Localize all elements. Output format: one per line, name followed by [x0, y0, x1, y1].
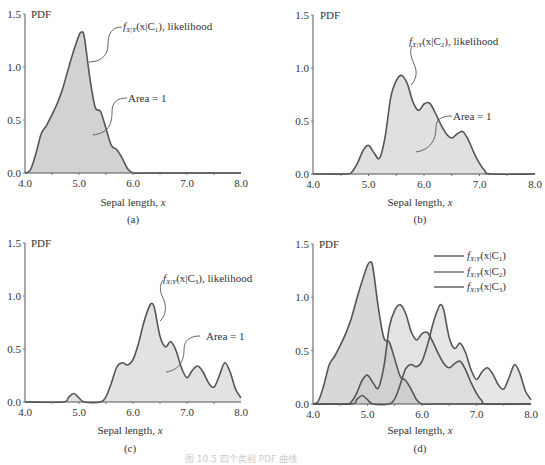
- legend: fX|Y(x|C1) fX|Y(x|C2) fX|Y(x|C3): [434, 249, 506, 294]
- x-axis-label: Sepal length, x: [97, 424, 162, 436]
- likelihood-annotation: fX|Y(x|C2), likelihood: [409, 35, 499, 49]
- annotation-leader: [89, 27, 122, 62]
- x-tick-label: 6.0: [126, 177, 140, 189]
- c3-area: [25, 303, 241, 402]
- y-tick-label: 1.0: [7, 290, 21, 302]
- x-tick-label: 7.0: [470, 408, 484, 420]
- x-axis-label: Sepal length, x: [387, 424, 452, 436]
- figure-caption: 图 10.5 四个类别 PDF 曲线: [185, 452, 297, 465]
- x-tick-label: 5.0: [362, 178, 376, 190]
- y-tick-label: 1.5: [7, 8, 21, 20]
- y-tick-label: 0.0: [295, 168, 309, 180]
- y-tick-label: 1.0: [295, 291, 309, 303]
- legend-label-c3: fX|Y(x|C3): [467, 280, 506, 294]
- c2-area: [313, 75, 535, 174]
- y-tick-label: 0.5: [7, 343, 21, 355]
- figure: 4.05.06.07.08.00.00.51.01.5 PDF Sepal le…: [0, 0, 545, 465]
- y-axis-label: PDF: [31, 8, 51, 20]
- x-tick-label: 6.0: [126, 406, 140, 418]
- likelihood-annotation: fX|Y(x|C3), likelihood: [163, 272, 253, 286]
- y-tick-label: 1.5: [295, 238, 309, 250]
- panel-label: (c): [124, 442, 137, 455]
- area-annotation: Area = 1: [453, 110, 492, 122]
- panel-b-c2-likelihood: 4.05.06.07.08.00.00.51.01.5 PDF Sepal le…: [295, 9, 542, 226]
- y-axis-label: PDF: [320, 9, 340, 21]
- y-tick-label: 0.5: [7, 114, 21, 126]
- legend-label-c2: fX|Y(x|C2): [467, 265, 506, 279]
- annotation-leader: [411, 46, 416, 85]
- y-axis-label: PDF: [319, 238, 339, 250]
- x-tick-label: 8.0: [528, 178, 542, 190]
- x-tick-label: 8.0: [524, 408, 538, 420]
- x-axis-label: Sepal length, x: [387, 196, 452, 208]
- y-tick-label: 0.5: [295, 115, 309, 127]
- x-tick-label: 6.0: [417, 178, 431, 190]
- y-axis-label: PDF: [31, 237, 51, 249]
- y-tick-label: 0.0: [7, 396, 21, 408]
- panel-a-c1-likelihood: 4.05.06.07.08.00.00.51.01.5 PDF Sepal le…: [7, 8, 248, 226]
- panel-label: (a): [127, 213, 140, 226]
- y-tick-label: 1.5: [295, 9, 309, 21]
- y-tick-label: 1.5: [7, 237, 21, 249]
- x-tick-label: 7.0: [180, 177, 194, 189]
- x-tick-label: 5.0: [72, 406, 86, 418]
- y-tick-label: 1.0: [7, 61, 21, 73]
- x-tick-label: 7.0: [473, 178, 487, 190]
- x-tick-label: 5.0: [361, 408, 375, 420]
- area-annotation: Area = 1: [128, 92, 167, 104]
- x-axis-label: Sepal length, x: [100, 196, 165, 208]
- legend-item-c3: fX|Y(x|C3): [434, 280, 506, 294]
- x-tick-label: 8.0: [234, 406, 248, 418]
- panel-label: (b): [414, 213, 427, 226]
- x-tick-label: 6.0: [415, 408, 429, 420]
- y-tick-label: 0.0: [295, 398, 309, 410]
- x-tick-label: 8.0: [234, 177, 248, 189]
- y-tick-label: 0.0: [7, 167, 21, 179]
- annotation-leader: [160, 280, 165, 321]
- x-tick-label: 5.0: [72, 177, 86, 189]
- legend-item-c2: fX|Y(x|C2): [434, 265, 506, 279]
- area-annotation: Area = 1: [206, 330, 245, 342]
- x-tick-label: 7.0: [180, 406, 194, 418]
- likelihood-annotation: fX|Y(x|C1), likelihood: [123, 20, 213, 34]
- y-tick-label: 1.0: [295, 62, 309, 74]
- panel-label: (d): [414, 442, 427, 455]
- legend-label-c1: fX|Y(x|C1): [467, 249, 506, 263]
- legend-item-c1: fX|Y(x|C1): [434, 249, 506, 263]
- y-tick-label: 0.5: [295, 345, 309, 357]
- panel-c-c3-likelihood: 4.05.06.07.08.00.00.51.01.5 PDF Sepal le…: [7, 237, 252, 455]
- panel-d-all-likelihoods: 4.05.06.07.08.00.00.51.01.5 PDF Sepal le…: [295, 238, 538, 455]
